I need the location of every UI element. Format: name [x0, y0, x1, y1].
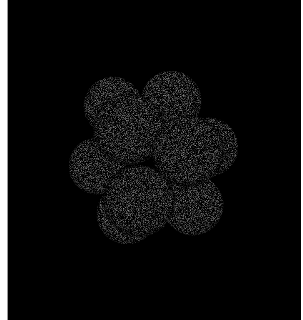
cell-cluster	[69, 71, 238, 244]
cell-front	[104, 166, 174, 236]
cell-cluster-image	[0, 0, 303, 320]
